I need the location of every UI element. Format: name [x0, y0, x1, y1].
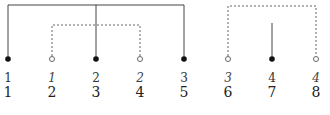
- pair-label-1: 1: [0, 71, 18, 85]
- node-open-8: [314, 57, 319, 62]
- position-label-2: 2: [42, 84, 62, 100]
- position-label-3: 3: [86, 84, 106, 100]
- pair-label-8: 4: [306, 71, 326, 85]
- node-filled-3: [93, 56, 99, 62]
- pair-label-7: 4: [262, 71, 282, 85]
- pair-label-6: 3: [218, 71, 238, 85]
- position-label-4: 4: [130, 84, 150, 100]
- node-open-2: [50, 57, 55, 62]
- pair-label-4: 2: [130, 71, 150, 85]
- pair-label-3: 2: [86, 71, 106, 85]
- position-label-7: 7: [262, 84, 282, 100]
- pair-label-2: 1: [42, 71, 62, 85]
- node-open-4: [138, 57, 143, 62]
- pair-label-5: 3: [174, 71, 194, 85]
- solid-arc-1-3-5: [8, 5, 184, 58]
- position-label-6: 6: [218, 84, 238, 100]
- node-filled-5: [181, 56, 187, 62]
- node-open-6: [226, 57, 231, 62]
- position-label-5: 5: [174, 84, 194, 100]
- position-label-8: 8: [306, 84, 326, 100]
- node-filled-1: [5, 56, 11, 62]
- node-filled-7: [269, 56, 275, 62]
- position-label-1: 1: [0, 84, 18, 100]
